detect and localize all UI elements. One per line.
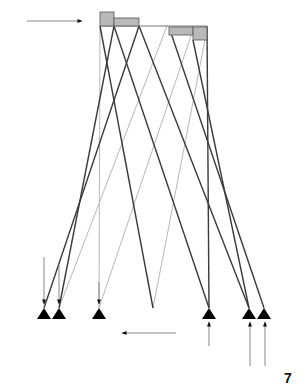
support-5-triangle-icon	[242, 308, 256, 319]
dark-member	[44, 26, 139, 308]
light-member	[99, 26, 100, 308]
dark-member	[59, 26, 114, 308]
dark-members	[44, 26, 264, 308]
dark-member	[100, 26, 153, 308]
block-d	[193, 27, 207, 40]
dark-member	[170, 30, 264, 308]
support-2-triangle-icon	[52, 308, 66, 319]
figure-number-label: 7	[284, 370, 292, 386]
block-c	[169, 27, 193, 35]
frame-diagram	[0, 0, 308, 386]
pinned-supports	[37, 308, 271, 319]
support-3-triangle-icon	[92, 308, 106, 319]
dark-member	[139, 26, 249, 308]
support-1-triangle-icon	[37, 308, 51, 319]
block-a	[100, 12, 114, 26]
dark-member	[207, 26, 209, 308]
support-6-triangle-icon	[257, 308, 271, 319]
block-b	[114, 18, 139, 26]
dark-member	[193, 40, 249, 308]
light-member	[99, 30, 193, 308]
support-4-triangle-icon	[202, 308, 216, 319]
